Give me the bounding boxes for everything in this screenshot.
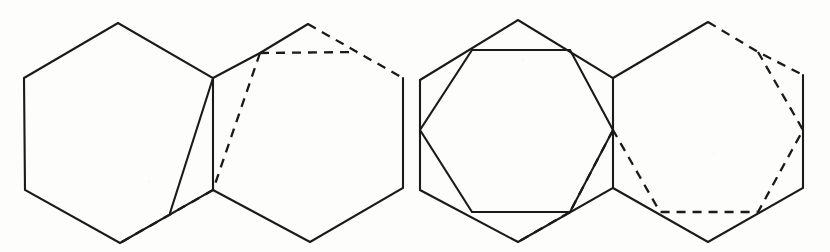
inscribed-octagon-solid bbox=[420, 50, 613, 212]
right-hexagon-left-solid bbox=[613, 22, 708, 78]
right-octagon-dashed bbox=[613, 52, 803, 212]
right-hexagon-top-dashed-2 bbox=[708, 22, 803, 75]
left-hexagon-solid bbox=[24, 23, 213, 243]
left-panel-group bbox=[24, 23, 403, 243]
right-hexagon-top-dashed bbox=[308, 24, 403, 78]
right-hexagon-right-solid-2 bbox=[613, 75, 803, 242]
inner-hexagon-top-dashed bbox=[260, 52, 357, 53]
polygon-diagram-svg bbox=[0, 0, 830, 252]
right-panel-group bbox=[420, 20, 803, 242]
right-hexagon-partial-solid bbox=[213, 24, 308, 78]
right-hexagon-right-solid bbox=[213, 78, 403, 242]
left-hexagon-solid-2 bbox=[420, 20, 613, 242]
figure-canvas bbox=[0, 0, 830, 252]
